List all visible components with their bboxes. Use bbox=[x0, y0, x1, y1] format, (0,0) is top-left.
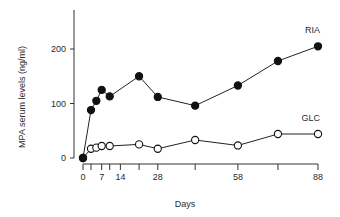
data-point bbox=[93, 97, 100, 104]
data-point bbox=[274, 57, 281, 64]
data-point bbox=[234, 142, 241, 149]
series-label-ria: RIA bbox=[305, 25, 320, 35]
data-point bbox=[274, 130, 281, 137]
y-tick-label: 0 bbox=[61, 153, 66, 163]
x-tick-label: 0 bbox=[80, 172, 85, 182]
x-tick-label: 7 bbox=[99, 172, 104, 182]
line-chart: 01002000714285888 RIAGLC MPA serum level… bbox=[0, 0, 340, 217]
data-point bbox=[106, 93, 113, 100]
data-point bbox=[314, 43, 321, 50]
y-tick-label: 100 bbox=[51, 99, 66, 109]
x-tick-label: 14 bbox=[115, 172, 125, 182]
series-label-glc: GLC bbox=[301, 113, 320, 123]
series-line-glc bbox=[83, 134, 318, 158]
series-layer: RIAGLC bbox=[79, 25, 321, 161]
data-point bbox=[87, 106, 94, 113]
data-point bbox=[135, 141, 142, 148]
data-point bbox=[154, 145, 161, 152]
data-point bbox=[98, 86, 105, 93]
axes: 01002000714285888 bbox=[51, 10, 323, 182]
data-point bbox=[154, 93, 161, 100]
y-axis-label: MPA serum levels (ng/ml) bbox=[17, 46, 27, 148]
x-tick-label: 88 bbox=[313, 172, 323, 182]
y-tick-label: 200 bbox=[51, 44, 66, 54]
data-point bbox=[314, 130, 321, 137]
data-point bbox=[98, 142, 105, 149]
series-line-ria bbox=[83, 46, 318, 158]
data-point bbox=[192, 136, 199, 143]
data-point bbox=[79, 154, 86, 161]
data-point bbox=[106, 142, 113, 149]
data-point bbox=[192, 102, 199, 109]
data-point bbox=[234, 82, 241, 89]
data-point bbox=[135, 73, 142, 80]
x-tick-label: 58 bbox=[233, 172, 243, 182]
x-axis-label: Days bbox=[175, 199, 196, 209]
x-tick-label: 28 bbox=[153, 172, 163, 182]
